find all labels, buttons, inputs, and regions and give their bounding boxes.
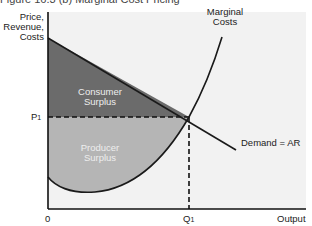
- consumer-surplus-label: Consumer Surplus: [70, 87, 130, 107]
- p1-tick-label: P1: [31, 112, 41, 123]
- producer-surplus-label: Producer Surplus: [70, 143, 130, 163]
- y-axis-label-line: Costs: [2, 32, 44, 42]
- marginal-costs-label: Marginal Costs: [203, 7, 247, 27]
- mc-label-line: Costs: [203, 17, 247, 27]
- x-axis-label: Output: [277, 214, 306, 224]
- y-axis-label: Price, Revenue, Costs: [2, 12, 44, 42]
- q1-subscript: 1: [190, 216, 194, 223]
- origin-label: 0: [45, 214, 50, 224]
- chart-canvas: [0, 0, 312, 226]
- ps-label-line: Surplus: [70, 153, 130, 163]
- p1-subscript: 1: [37, 114, 41, 121]
- cs-label-line: Surplus: [70, 97, 130, 107]
- q1-tick-label: Q1: [183, 214, 194, 225]
- demand-label: Demand = AR: [241, 138, 300, 148]
